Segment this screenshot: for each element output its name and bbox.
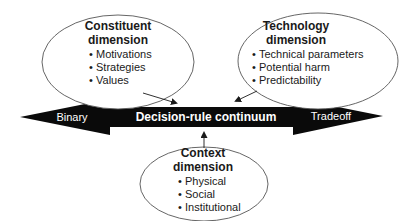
context-bullet: • (178, 201, 182, 213)
context-item: Institutional (185, 201, 241, 213)
technology-dimension: Technology dimension • Technical paramet… (238, 13, 398, 109)
constituent-item: Values (96, 74, 129, 86)
constituent-item: Motivations (96, 48, 152, 60)
context-bullet: • (178, 188, 182, 200)
technology-item: Predictability (259, 74, 322, 86)
constituent-title-2: dimension (88, 33, 148, 47)
context-dimension: Context dimension • Physical • Social • … (140, 146, 268, 221)
constituent-dimension: Constituent dimension • Motivations • St… (42, 15, 194, 109)
technology-connector-arrow (236, 91, 257, 101)
context-title-2: dimension (173, 160, 233, 174)
binary-label: Binary (56, 111, 88, 123)
constituent-title-1: Constituent (85, 19, 152, 33)
technology-title-1: Technology (263, 19, 330, 33)
technology-bullet: • (252, 48, 256, 60)
context-bullet: • (178, 175, 182, 187)
tradeoff-label: Tradeoff (311, 110, 352, 122)
technology-bullet: • (252, 74, 256, 86)
constituent-item: Strategies (96, 61, 146, 73)
constituent-bullet: • (89, 61, 93, 73)
context-item: Social (185, 188, 215, 200)
technology-item: Potential harm (259, 61, 330, 73)
continuum-label: Decision-rule continuum (136, 110, 277, 124)
context-title-1: Context (181, 146, 226, 160)
technology-item: Technical parameters (259, 48, 364, 60)
context-item: Physical (185, 175, 226, 187)
decision-rule-diagram: Binary Decision-rule continuum Tradeoff … (0, 0, 403, 221)
technology-bullet: • (252, 61, 256, 73)
technology-title-2: dimension (266, 33, 326, 47)
constituent-bullet: • (89, 48, 93, 60)
constituent-bullet: • (89, 74, 93, 86)
